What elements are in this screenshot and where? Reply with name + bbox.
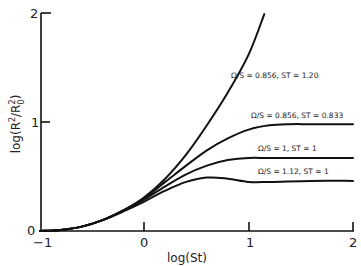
y-axis-label: log(R2/R20) [8,95,26,154]
x-tick-labels: −1 0 1 2 [33,235,357,250]
x-tick-label: 1 [246,235,254,250]
x-tick-label: 2 [349,235,357,250]
curve-label-4: Ω/S = 1.12, ST = 1 [258,167,329,176]
y-axis-label-text: log(R2/R20) [8,95,26,154]
axes [41,13,354,231]
line-chart: 2 1 0 −1 0 1 2 log(St) log(R2/R20) Ω/S =… [0,0,361,266]
y-tick-label: 2 [30,6,38,21]
y-tick-label: 1 [31,115,39,130]
curve-label-3: Ω/S = 1, ST = 1 [258,144,317,153]
x-axis-label: log(St) [167,251,207,265]
x-tick-label: 0 [140,235,148,250]
y-tick-labels: 2 1 0 [27,6,39,238]
curve-label-1: Ω/S = 0.856, ST = 1.20 [231,71,319,80]
x-tick-label: −1 [33,235,52,250]
curve-label-2: Ω/S = 0.856, ST = 0.833 [251,111,343,120]
curve-series-4 [40,177,353,231]
curves [40,14,353,231]
